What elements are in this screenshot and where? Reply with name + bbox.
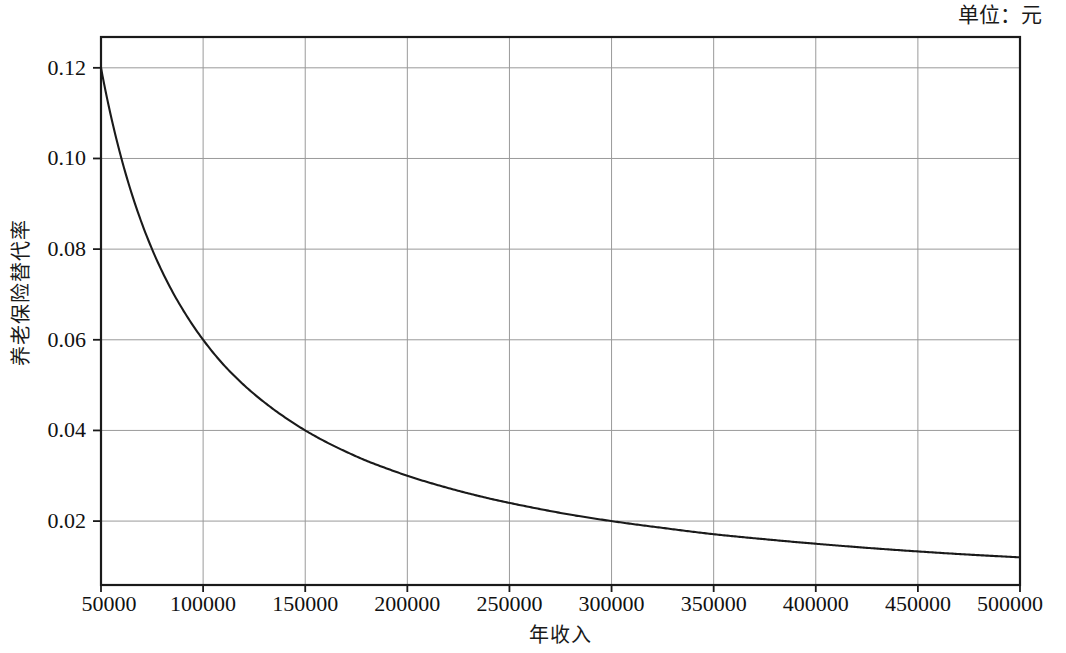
data-series-line — [101, 68, 1020, 558]
gridlines — [101, 37, 1020, 585]
plot-area — [0, 0, 1066, 653]
axis-ticks — [93, 68, 1020, 592]
plot-frame — [101, 37, 1020, 585]
chart-figure: 单位：元 养老保险替代率 年收入 0.020.040.060.080.100.1… — [0, 0, 1066, 653]
